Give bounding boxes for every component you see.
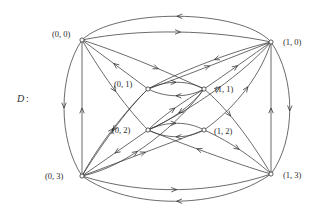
graph-node-n11[interactable] [202,87,206,91]
edge-13-to-03-bottom-outer [82,174,271,201]
graph-node-n12[interactable] [202,128,206,132]
edge-13-to-02 [148,130,271,174]
node-label-n03: (0, 3) [45,171,64,181]
edge-02-to-11 [148,89,204,130]
node-label-n13: (1, 3) [283,170,302,180]
edge-10-to-13-right-arc [271,42,290,174]
node-label-n11: (1, 1) [215,84,234,94]
figure-name-label: D [16,93,25,104]
edge-00-to-11 [82,40,204,89]
node-labels-layer: (0, 0)(1, 0)(0, 1)(1, 1)(0, 2)(1, 2)(0, … [45,29,302,181]
figure-colon: : [26,93,29,104]
figure-canvas: (0, 0)(1, 0)(0, 1)(1, 1)(0, 2)(1, 2)(0, … [0,0,321,214]
edges-layer [64,16,290,201]
graph-node-n10[interactable] [269,40,273,44]
edge-11-to-02 [148,89,204,130]
edge-03-to-13-bottom-mid [82,174,271,190]
node-label-n10: (1, 0) [283,37,302,47]
graph-node-n01[interactable] [146,87,150,91]
arrowhead-edge-02-to-11 [170,108,175,113]
edge-12-to-13 [204,130,271,174]
graph-node-n03[interactable] [80,174,84,178]
graph-node-n02[interactable] [146,128,150,132]
edge-10-to-00-outer-top [82,16,271,42]
directed-graph-svg: (0, 0)(1, 0)(0, 1)(1, 1)(0, 2)(1, 2)(0, … [0,0,321,214]
graph-node-n00[interactable] [80,38,84,42]
edge-11-to-01-lower [148,89,204,96]
arrowhead-edge-12-to-13 [234,145,239,150]
node-label-n02: (0, 2) [112,125,131,135]
arrowheads-layer [62,14,292,203]
node-label-n12: (1, 2) [214,126,233,136]
node-label-n01: (0, 1) [114,79,133,89]
edge-03-to-12 [82,130,204,176]
edge-01-to-10 [148,42,271,89]
graph-node-n13[interactable] [269,172,273,176]
node-label-n00: (0, 0) [52,29,71,39]
edge-00-to-03-left-arc [64,40,82,176]
